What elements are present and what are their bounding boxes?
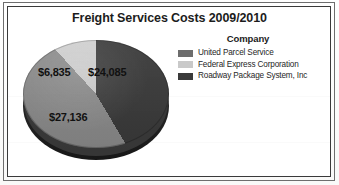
legend-swatch-icon — [178, 61, 193, 68]
chart-title: Freight Services Costs 2009/2010 — [0, 11, 339, 25]
legend-label-federal-express-corporation: Federal Express Corporation — [198, 60, 299, 70]
legend-item-roadway-package-system[interactable]: Roadway Package System, Inc — [178, 71, 328, 81]
legend-swatch-icon — [178, 73, 193, 80]
chart-screenshot: Freight Services Costs 2009/2010 $24,085… — [0, 0, 339, 185]
pie-chart — [23, 38, 169, 169]
pie-label-united-parcel-service: $24,085 — [88, 66, 126, 78]
legend-label-united-parcel-service: United Parcel Service — [198, 48, 274, 58]
pie-label-federal-express: $6,835 — [38, 66, 70, 78]
legend-swatch-icon — [178, 50, 193, 57]
pie-label-roadway-package-system: $27,136 — [49, 111, 87, 123]
legend-title: Company — [184, 33, 312, 44]
legend-item-federal-express-corporation[interactable]: Federal Express Corporation — [178, 60, 328, 70]
legend-item-united-parcel-service[interactable]: United Parcel Service — [178, 48, 328, 58]
chart-legend: Company United Parcel Service Federal Ex… — [178, 33, 328, 83]
pie-slices[interactable] — [23, 40, 169, 148]
legend-label-roadway-package-system: Roadway Package System, Inc — [198, 71, 307, 81]
